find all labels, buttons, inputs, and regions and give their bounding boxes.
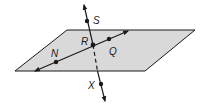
plane — [15, 30, 195, 71]
point-s — [85, 19, 89, 23]
point-x — [99, 82, 103, 86]
geometry-diagram: S R N Q X — [0, 0, 205, 109]
label-x: X — [87, 80, 95, 91]
point-q — [107, 37, 111, 41]
label-s: S — [93, 15, 100, 26]
label-n: N — [51, 48, 59, 59]
label-r: R — [81, 36, 88, 47]
label-q: Q — [109, 46, 117, 57]
point-n — [54, 60, 58, 64]
point-r — [91, 43, 96, 48]
